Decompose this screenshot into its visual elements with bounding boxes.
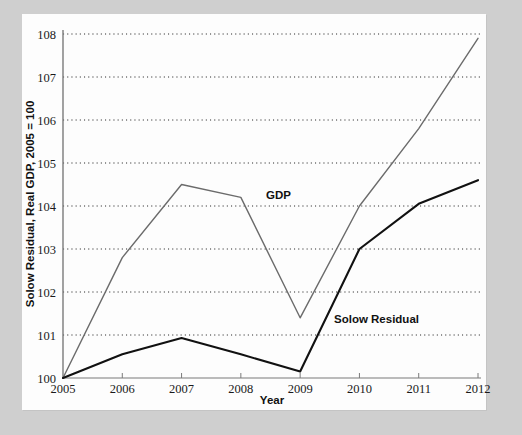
x-axis-ticks xyxy=(122,373,478,378)
y-axis-tick-label: 105 xyxy=(37,157,56,171)
series-line-gdp xyxy=(63,38,478,378)
y-axis-tick-label: 102 xyxy=(37,286,56,300)
y-axis-tick-label: 108 xyxy=(37,28,56,42)
y-axis-title: Solow Residual, Real GDP, 2005 = 100 xyxy=(24,101,36,308)
x-axis-tick-label: 2006 xyxy=(110,382,135,396)
y-axis-tick-label: 104 xyxy=(37,200,57,214)
y-axis-tick-labels: 100101102103104105106107108 xyxy=(37,28,57,386)
series-label-gdp: GDP xyxy=(266,189,291,201)
x-axis-tick-label: 2011 xyxy=(406,382,431,396)
chart-figure: 100101102103104105106107108 200520062007… xyxy=(0,0,522,435)
x-axis-title: Year xyxy=(260,394,285,406)
x-axis-tick-label: 2007 xyxy=(169,382,194,396)
y-axis-tick-label: 107 xyxy=(37,71,56,85)
line-chart: 100101102103104105106107108 200520062007… xyxy=(0,0,522,435)
series-line-solow-residual xyxy=(63,180,478,378)
y-axis-tick-label: 106 xyxy=(37,114,56,128)
gridlines xyxy=(63,34,481,335)
x-axis-tick-label: 2012 xyxy=(466,382,491,396)
y-axis-tick-label: 101 xyxy=(37,329,56,343)
x-axis-tick-label: 2009 xyxy=(288,382,313,396)
x-axis-tick-label: 2005 xyxy=(51,382,76,396)
series-label-solow-residual: Solow Residual xyxy=(334,313,419,325)
y-axis-tick-label: 103 xyxy=(37,243,56,257)
x-axis-tick-label: 2008 xyxy=(228,382,253,396)
x-axis-tick-label: 2010 xyxy=(347,382,372,396)
